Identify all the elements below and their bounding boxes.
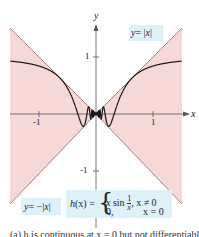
h-definition-lhs: h(x) = bbox=[70, 199, 95, 209]
h-case2: 0, x = 0 bbox=[106, 207, 114, 217]
h-case1-sin: sin bbox=[113, 197, 125, 208]
upper-bound-end: | bbox=[150, 27, 152, 38]
x-axis-arrow-icon bbox=[183, 112, 190, 117]
figure-caption: (a) h is continuous at x = 0 but not dif… bbox=[10, 229, 199, 237]
x-tick-label-neg1: -1 bbox=[33, 118, 41, 127]
lower-bound-end: | bbox=[49, 201, 51, 212]
y-tick-label-neg1: -1 bbox=[80, 166, 88, 175]
upper-bound-eq: = | bbox=[135, 27, 145, 38]
y-tick-label-pos1: 1 bbox=[85, 52, 90, 61]
h-arg: (x) = bbox=[75, 198, 95, 209]
h-case2-expr: 0, bbox=[106, 206, 114, 217]
lower-bound-label: y= −|x| bbox=[24, 202, 51, 212]
y-axis-label: y bbox=[94, 11, 98, 21]
upper-bound-label: y= |x| bbox=[131, 28, 152, 38]
h-case2-cond: x = 0 bbox=[143, 207, 164, 217]
y-axis-arrow-icon bbox=[94, 24, 99, 31]
x-axis-label: x bbox=[191, 109, 195, 119]
x-tick-label-pos1: 1 bbox=[151, 118, 156, 127]
lower-bound-eq: = −| bbox=[28, 201, 44, 212]
